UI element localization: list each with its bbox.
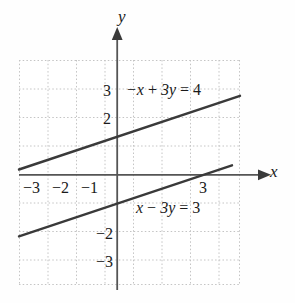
y-axis-label: y (118, 8, 126, 25)
eq2-equals: = (179, 199, 188, 216)
x-tick-label-neg1: −1 (81, 180, 98, 196)
x-tick-label-3: 3 (199, 180, 207, 196)
y-tick-label-2: 2 (103, 111, 111, 127)
eq1-rhs: 4 (193, 81, 201, 98)
eq1-equals: = (180, 81, 189, 98)
eq2-rhs: 3 (192, 199, 200, 216)
y-tick-label-3: 3 (103, 83, 111, 99)
x-axis-label: x (270, 163, 278, 180)
equation-label-line1: −x + 3y = 4 (126, 82, 201, 98)
graph-figure: y x −3 −2 −1 3 3 2 −2 −3 −x + 3y = 4 x −… (0, 0, 295, 303)
equation-label-line2: x − 3y = 3 (136, 200, 200, 216)
eq2-term-a: x (136, 199, 143, 216)
coordinate-plane-svg (0, 0, 295, 303)
x-tick-label-neg3: −3 (23, 180, 40, 196)
eq2-term-b: 3y (160, 199, 175, 216)
eq2-operator: − (147, 199, 156, 216)
x-tick-label-neg2: −2 (52, 180, 69, 196)
eq1-operator: + (148, 81, 157, 98)
y-axis-arrow (112, 27, 123, 40)
y-tick-label-neg3: −3 (96, 254, 113, 270)
eq1-term-b: 3y (161, 81, 176, 98)
y-tick-label-neg2: −2 (96, 226, 113, 242)
eq1-term-a: −x (126, 81, 144, 98)
